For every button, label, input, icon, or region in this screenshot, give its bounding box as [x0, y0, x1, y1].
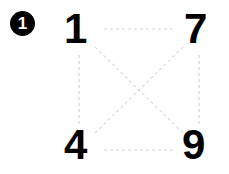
node-label-bottom-left: 4	[64, 124, 87, 166]
node-label-top-left: 1	[64, 8, 87, 50]
figure-number-badge: 1	[10, 11, 35, 36]
node-label-bottom-right: 9	[182, 124, 205, 166]
node-label-top-right: 7	[184, 8, 207, 50]
figure-canvas: 1 1 7 4 9	[0, 0, 229, 174]
